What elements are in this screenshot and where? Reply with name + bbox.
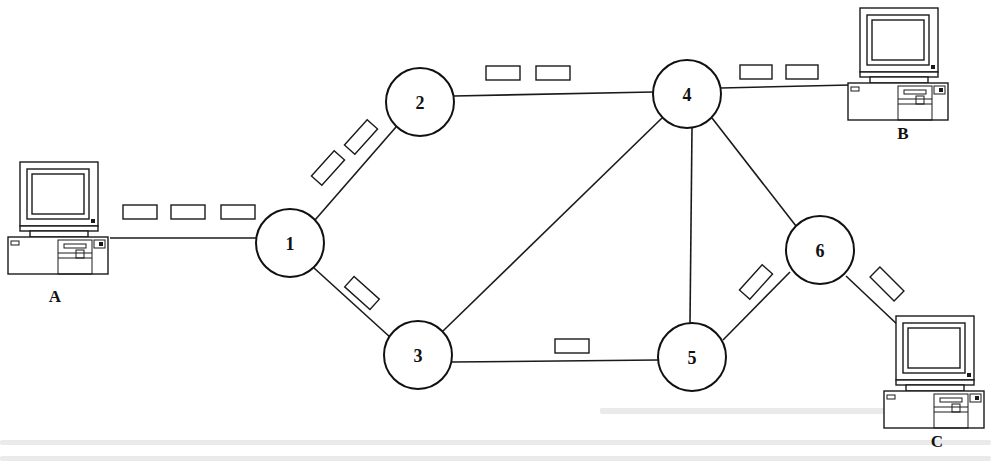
host-label: B xyxy=(897,124,908,143)
network-diagram: 123456 ABC xyxy=(0,0,991,466)
node-2: 2 xyxy=(386,68,454,136)
host-A: A xyxy=(8,162,108,306)
packet-1-2 xyxy=(344,120,377,155)
desktop-computer-icon xyxy=(848,8,948,120)
node-1: 1 xyxy=(256,209,324,277)
node-label: 5 xyxy=(688,348,697,368)
node-label: 3 xyxy=(414,346,423,366)
packet-4-B xyxy=(786,65,818,79)
packet-2-4 xyxy=(486,66,520,80)
link-3-4 xyxy=(443,118,662,331)
packet-3-5 xyxy=(555,339,589,353)
packet-A-1 xyxy=(171,205,205,219)
link-2-4 xyxy=(454,92,653,96)
node-label: 4 xyxy=(683,85,692,105)
packet-1-3 xyxy=(345,276,380,309)
packet-A-1 xyxy=(123,205,157,219)
scan-bleed-through xyxy=(0,408,991,461)
packet-6-C xyxy=(870,267,904,301)
host-label: A xyxy=(49,287,62,306)
packet-4-B xyxy=(740,65,772,79)
node-label: 6 xyxy=(816,241,825,261)
desktop-computer-icon xyxy=(884,316,984,428)
node-6: 6 xyxy=(786,216,854,284)
packet-A-1 xyxy=(221,205,255,219)
host-C: C xyxy=(884,316,984,451)
node-4: 4 xyxy=(653,60,721,128)
node-label: 2 xyxy=(416,93,425,113)
link-4-5 xyxy=(690,128,692,323)
host-label: C xyxy=(931,432,943,451)
link-3-5 xyxy=(452,360,658,362)
link-4-B xyxy=(721,85,850,88)
node-label: 1 xyxy=(286,234,295,254)
desktop-computer-icon xyxy=(8,162,108,274)
host-B: B xyxy=(848,8,948,143)
node-5: 5 xyxy=(658,323,726,391)
packet-1-2 xyxy=(311,151,344,186)
node-3: 3 xyxy=(384,321,452,389)
link-4-6 xyxy=(712,118,796,226)
packet-2-4 xyxy=(536,66,570,80)
packets-layer xyxy=(123,65,904,353)
links-layer xyxy=(110,85,900,362)
